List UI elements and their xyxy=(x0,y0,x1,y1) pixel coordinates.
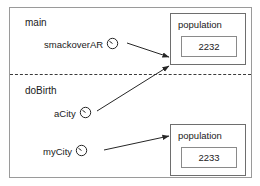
variable-smackoverar: smackoverAR xyxy=(44,36,119,54)
scope-divider xyxy=(10,74,251,75)
variable-label-smackoverar: smackoverAR xyxy=(44,40,103,50)
object-field-population-2233: 2233 xyxy=(181,147,237,168)
object-field-value-population-2232: 2232 xyxy=(198,42,219,52)
object-box-population-2233: population 2233 xyxy=(170,124,246,176)
object-field-value-population-2233: 2233 xyxy=(198,153,219,163)
object-title-population-2233: population xyxy=(178,131,222,141)
object-box-population-2232: population 2232 xyxy=(170,13,246,65)
reference-circle-icon xyxy=(75,143,88,161)
variable-label-mycity: myCity xyxy=(43,147,72,157)
scope-label-dobirth: doBirth xyxy=(25,86,57,96)
object-field-population-2232: 2232 xyxy=(181,36,237,57)
variable-mycity: myCity xyxy=(43,143,88,161)
reference-circle-icon xyxy=(79,105,92,123)
reference-circle-icon xyxy=(106,36,119,54)
diagram-canvas: main doBirth smackoverAR aCity myCity xyxy=(0,0,260,186)
object-title-population-2232: population xyxy=(178,20,222,30)
variable-acity: aCity xyxy=(54,105,92,123)
variable-label-acity: aCity xyxy=(54,109,76,119)
scope-label-main: main xyxy=(25,18,47,28)
